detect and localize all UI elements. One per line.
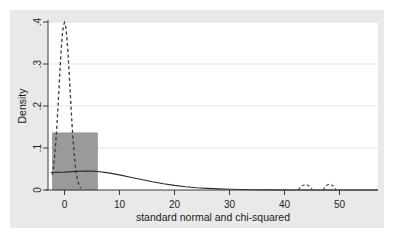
- x-axis-tick-labels: 01020304050: [62, 199, 346, 210]
- y-axis-tick-labels: 0.1.2.3.4: [32, 17, 43, 192]
- x-tick-label-5: 50: [334, 199, 346, 210]
- x-tick-label-1: 10: [114, 199, 126, 210]
- x-axis-title: standard normal and chi-squared: [136, 211, 290, 223]
- x-tick-label-2: 20: [169, 199, 181, 210]
- x-tick-label-3: 30: [224, 199, 236, 210]
- x-axis-ticks: [65, 190, 340, 195]
- y-tick-label-0: 0: [32, 187, 43, 193]
- y-tick-label-2: .2: [32, 101, 43, 110]
- chart-figure: 0.1.2.3.4 01020304050 Density standard n…: [0, 0, 394, 238]
- chart-plot-svg: 0.1.2.3.4 01020304050 Density standard n…: [0, 0, 394, 238]
- x-tick-label-4: 40: [279, 199, 291, 210]
- y-tick-label-3: .3: [32, 59, 43, 68]
- y-axis-title: Density: [16, 88, 28, 124]
- y-axis-ticks: [43, 22, 48, 190]
- y-tick-label-4: .4: [32, 17, 43, 26]
- x-tick-label-0: 0: [62, 199, 68, 210]
- y-tick-label-1: .1: [32, 143, 43, 152]
